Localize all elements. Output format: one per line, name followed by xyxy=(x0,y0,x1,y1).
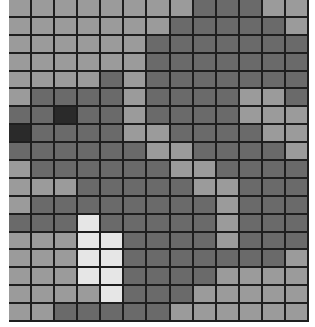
grid-cell[interactable] xyxy=(101,233,122,249)
grid-cell[interactable] xyxy=(78,268,99,284)
grid-cell[interactable] xyxy=(171,215,192,231)
grid-cell[interactable] xyxy=(171,179,192,195)
grid-cell[interactable] xyxy=(171,286,192,302)
grid-cell[interactable] xyxy=(263,215,284,231)
grid-cell[interactable] xyxy=(124,286,145,302)
grid-cell[interactable] xyxy=(263,89,284,105)
grid-cell[interactable] xyxy=(194,304,215,320)
grid-cell[interactable] xyxy=(194,54,215,70)
grid-cell[interactable] xyxy=(286,0,307,16)
grid-cell[interactable] xyxy=(78,143,99,159)
grid-cell[interactable] xyxy=(101,304,122,320)
grid-cell[interactable] xyxy=(240,107,261,123)
grid-cell[interactable] xyxy=(147,286,168,302)
grid-cell[interactable] xyxy=(171,107,192,123)
grid-cell[interactable] xyxy=(9,286,30,302)
grid-cell[interactable] xyxy=(9,125,30,141)
grid-cell[interactable] xyxy=(124,18,145,34)
grid-cell[interactable] xyxy=(101,143,122,159)
grid-cell[interactable] xyxy=(9,161,30,177)
grid-cell[interactable] xyxy=(101,0,122,16)
grid-cell[interactable] xyxy=(124,72,145,88)
grid-cell[interactable] xyxy=(101,268,122,284)
grid-cell[interactable] xyxy=(194,72,215,88)
grid-cell[interactable] xyxy=(286,161,307,177)
grid-cell[interactable] xyxy=(240,143,261,159)
grid-cell[interactable] xyxy=(124,250,145,266)
grid-cell[interactable] xyxy=(171,304,192,320)
grid-cell[interactable] xyxy=(101,72,122,88)
grid-cell[interactable] xyxy=(147,304,168,320)
grid-cell[interactable] xyxy=(9,304,30,320)
grid-cell[interactable] xyxy=(194,89,215,105)
grid-cell[interactable] xyxy=(194,233,215,249)
grid-cell[interactable] xyxy=(194,143,215,159)
grid-cell[interactable] xyxy=(286,286,307,302)
grid-cell[interactable] xyxy=(78,0,99,16)
grid-cell[interactable] xyxy=(101,89,122,105)
grid-cell[interactable] xyxy=(32,143,53,159)
grid-cell[interactable] xyxy=(9,54,30,70)
grid-cell[interactable] xyxy=(217,89,238,105)
grid-cell[interactable] xyxy=(55,304,76,320)
grid-cell[interactable] xyxy=(55,54,76,70)
grid-cell[interactable] xyxy=(9,179,30,195)
grid-cell[interactable] xyxy=(55,107,76,123)
grid-cell[interactable] xyxy=(124,161,145,177)
grid-cell[interactable] xyxy=(194,0,215,16)
grid-cell[interactable] xyxy=(194,36,215,52)
grid-cell[interactable] xyxy=(263,125,284,141)
grid-cell[interactable] xyxy=(78,125,99,141)
grid-cell[interactable] xyxy=(240,161,261,177)
grid-cell[interactable] xyxy=(101,107,122,123)
grid-cell[interactable] xyxy=(217,304,238,320)
grid-cell[interactable] xyxy=(124,304,145,320)
grid-cell[interactable] xyxy=(240,215,261,231)
grid-cell[interactable] xyxy=(32,54,53,70)
grid-cell[interactable] xyxy=(240,268,261,284)
grid-cell[interactable] xyxy=(147,0,168,16)
grid-cell[interactable] xyxy=(263,72,284,88)
grid-cell[interactable] xyxy=(240,36,261,52)
grid-cell[interactable] xyxy=(9,18,30,34)
grid-cell[interactable] xyxy=(171,54,192,70)
grid-cell[interactable] xyxy=(171,161,192,177)
grid-cell[interactable] xyxy=(286,36,307,52)
grid-cell[interactable] xyxy=(78,107,99,123)
grid-cell[interactable] xyxy=(263,0,284,16)
grid-cell[interactable] xyxy=(9,36,30,52)
grid-cell[interactable] xyxy=(147,179,168,195)
grid-cell[interactable] xyxy=(101,197,122,213)
grid-cell[interactable] xyxy=(101,179,122,195)
grid-cell[interactable] xyxy=(55,197,76,213)
grid-cell[interactable] xyxy=(9,250,30,266)
grid-cell[interactable] xyxy=(124,233,145,249)
grid-cell[interactable] xyxy=(9,197,30,213)
grid-cell[interactable] xyxy=(124,54,145,70)
grid-cell[interactable] xyxy=(78,89,99,105)
grid-cell[interactable] xyxy=(78,72,99,88)
grid-cell[interactable] xyxy=(32,161,53,177)
grid-cell[interactable] xyxy=(263,304,284,320)
grid-cell[interactable] xyxy=(263,286,284,302)
grid-cell[interactable] xyxy=(78,215,99,231)
grid-cell[interactable] xyxy=(171,18,192,34)
grid-cell[interactable] xyxy=(263,250,284,266)
grid-cell[interactable] xyxy=(55,161,76,177)
grid-cell[interactable] xyxy=(9,107,30,123)
grid-cell[interactable] xyxy=(78,18,99,34)
grid-cell[interactable] xyxy=(55,179,76,195)
grid-cell[interactable] xyxy=(9,143,30,159)
grid-cell[interactable] xyxy=(55,286,76,302)
grid-cell[interactable] xyxy=(263,54,284,70)
grid-cell[interactable] xyxy=(171,0,192,16)
grid-cell[interactable] xyxy=(147,36,168,52)
grid-cell[interactable] xyxy=(171,233,192,249)
grid-cell[interactable] xyxy=(263,179,284,195)
grid-cell[interactable] xyxy=(124,107,145,123)
grid-cell[interactable] xyxy=(101,161,122,177)
grid-cell[interactable] xyxy=(124,268,145,284)
grid-cell[interactable] xyxy=(78,179,99,195)
grid-cell[interactable] xyxy=(286,54,307,70)
grid-cell[interactable] xyxy=(194,161,215,177)
